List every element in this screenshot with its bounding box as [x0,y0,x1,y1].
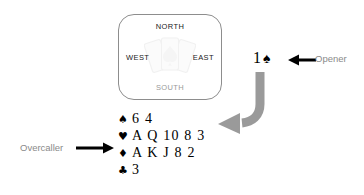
arrow-right-icon [76,142,114,154]
club-icon: ♣ [118,162,132,179]
compass-box: NORTH WEST EAST SOUTH [118,14,222,100]
opener-bid-level: 1 [253,49,261,66]
hand-row-hearts: ♥ A Q 10 8 3 [118,127,205,144]
bridge-bidding-diagram: NORTH WEST EAST SOUTH 1♠ Opener ♠ 6 4 ♥ … [0,0,364,195]
arrow-left-icon [288,54,316,66]
overcaller-label: Overcaller [20,142,63,153]
hand-row-spades: ♠ 6 4 [118,110,205,127]
overcaller-hand: ♠ 6 4 ♥ A Q 10 8 3 ♦ A K J 8 2 ♣ 3 [118,110,205,178]
hand-cards-hearts: A Q 10 8 3 [132,127,205,144]
hand-cards-clubs: 3 [132,161,140,178]
heart-icon: ♥ [118,128,132,145]
card-fan-icon [144,29,196,85]
spade-icon: ♠ [118,111,132,128]
hand-cards-diamonds: A K J 8 2 [132,144,196,161]
opener-label: Opener [315,53,347,64]
diamond-icon: ♦ [118,145,132,162]
spade-icon: ♠ [261,51,270,66]
hand-row-clubs: ♣ 3 [118,161,205,178]
compass-label-south: SOUTH [119,83,221,92]
curved-arrow-down-left-icon [216,72,276,134]
hand-row-diamonds: ♦ A K J 8 2 [118,144,205,161]
compass-label-west: WEST [126,53,149,62]
compass-label-east: EAST [193,53,214,62]
compass-label-north: NORTH [119,22,221,31]
opener-bid: 1♠ [253,50,270,66]
hand-cards-spades: 6 4 [132,110,153,127]
